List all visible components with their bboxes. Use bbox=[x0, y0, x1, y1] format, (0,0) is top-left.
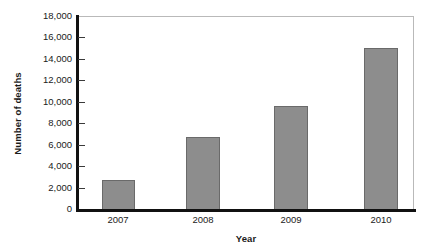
y-tick-label: 14,000 bbox=[4, 54, 72, 64]
x-tick-label-2007: 2007 bbox=[88, 214, 148, 225]
y-tick-mark bbox=[78, 102, 85, 103]
bar-chart: Number of deaths 18,000 16,000 14,000 12… bbox=[0, 0, 432, 252]
x-tick-label-2008: 2008 bbox=[173, 214, 233, 225]
y-tick-mark bbox=[78, 37, 85, 38]
x-axis-title: Year bbox=[78, 233, 414, 244]
y-tick-mark bbox=[78, 145, 85, 146]
y-tick-label: 8,000 bbox=[4, 118, 72, 128]
y-axis-tick-labels: 18,000 16,000 14,000 12,000 10,000 8,000… bbox=[0, 0, 72, 252]
bar-2010 bbox=[364, 48, 398, 210]
y-tick-mark bbox=[78, 166, 85, 167]
y-tick-mark bbox=[78, 80, 85, 81]
plot-area bbox=[78, 16, 414, 210]
y-tick-mark bbox=[78, 123, 85, 124]
x-axis-line bbox=[76, 209, 416, 212]
y-tick-mark bbox=[78, 59, 85, 60]
x-tick-label-2010: 2010 bbox=[351, 214, 411, 225]
y-tick-label: 2,000 bbox=[4, 183, 72, 193]
y-tick-label: 4,000 bbox=[4, 161, 72, 171]
y-tick-mark bbox=[78, 188, 85, 189]
x-tick-label-2009: 2009 bbox=[261, 214, 321, 225]
y-axis-line bbox=[76, 15, 79, 211]
y-tick-label: 6,000 bbox=[4, 140, 72, 150]
bar-2008 bbox=[186, 137, 220, 210]
y-tick-label: 10,000 bbox=[4, 97, 72, 107]
bar-2007 bbox=[102, 180, 135, 210]
y-tick-label: 12,000 bbox=[4, 75, 72, 85]
y-tick-label: 0 bbox=[4, 204, 72, 214]
y-tick-label: 16,000 bbox=[4, 32, 72, 42]
bar-2009 bbox=[274, 106, 308, 210]
y-tick-label: 18,000 bbox=[4, 11, 72, 21]
